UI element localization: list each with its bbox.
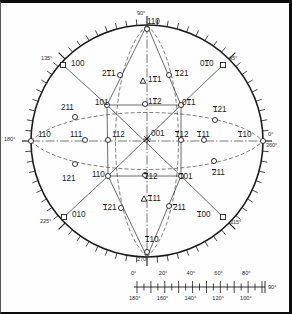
- angle-label-225: 225°: [40, 219, 51, 225]
- pole-label-p-010b: 010: [200, 60, 213, 68]
- pole-marker-p-110rb: [261, 139, 266, 144]
- pole-marker-p-111l: [83, 138, 88, 143]
- pole-label-p-111t: 111: [148, 76, 161, 84]
- pole-marker-p-211br: [212, 159, 217, 164]
- pole-label-p-010: 010: [72, 211, 85, 219]
- angle-label-180: 180°: [4, 137, 15, 143]
- angle-label-90: 90°: [137, 11, 145, 17]
- pole-label-p-121bb: 121: [103, 204, 116, 212]
- pole-marker-p-001: [143, 135, 151, 143]
- pole-label-p-110bl: 110: [92, 171, 105, 179]
- pole-label-p-211bb: 211: [173, 204, 186, 212]
- pole-label-p-101br: 101: [179, 173, 192, 181]
- pole-marker-p-110t: [145, 27, 150, 32]
- pole-label-p-211l: 211: [61, 104, 74, 112]
- pole-label-p-121r: 121: [213, 106, 226, 114]
- pole-marker-p-110bl: [106, 174, 111, 179]
- pole-marker-p-121t: [167, 73, 172, 78]
- pole-marker-p-121bl: [73, 162, 78, 167]
- pole-label-p-110bt: 110: [145, 236, 158, 244]
- pole-marker-p-211l: [73, 115, 78, 120]
- pole-label-p-112bt: 112: [144, 173, 157, 181]
- pole-label-p-121t: 121: [175, 70, 188, 78]
- pole-label-p-112t: 112: [148, 98, 161, 106]
- pole-marker-p-121r: [213, 118, 218, 123]
- pole-marker-p-010: [61, 214, 66, 219]
- angle-label-315: 315°: [230, 220, 241, 226]
- pole-label-p-001: 001: [151, 130, 164, 138]
- pole-marker-p-121bb: [119, 206, 124, 211]
- angle-label-270: 270°: [137, 257, 148, 263]
- angle-label-0: 0°: [268, 132, 273, 138]
- pole-label-p-111r: 111: [197, 131, 210, 139]
- angle-label-360: 360°: [266, 143, 277, 149]
- pole-label-p-211br: 211: [212, 169, 225, 177]
- pole-label-p-110rb: 110: [238, 131, 251, 139]
- pole-marker-p-111bt: [141, 196, 147, 201]
- pole-label-p-100b: 100: [197, 211, 210, 219]
- pole-marker-p-110r: [29, 139, 34, 144]
- pole-label-p-111l: 111: [70, 131, 82, 139]
- pole-marker-p-112t: [143, 102, 148, 107]
- pole-marker-p-100b: [220, 214, 225, 219]
- pole-marker-p-211bb: [167, 204, 172, 209]
- pole-marker-p-100: [60, 62, 65, 67]
- pole-label-p-011tr: 011: [182, 99, 195, 107]
- pole-label-p-101tl: 101: [95, 99, 108, 107]
- stereographic-projection-diagram: [1, 3, 292, 314]
- pole-marker-p-110bt: [145, 250, 150, 255]
- pole-label-p-211t: 211: [102, 70, 115, 78]
- figure-frame: 90° 135° 180° 225° 270° 315° 0° 360° 45°…: [0, 0, 292, 314]
- pole-label-p-111bt: 111: [148, 195, 161, 203]
- pole-marker-p-211t: [118, 73, 123, 78]
- angle-label-45: 45°: [229, 56, 237, 62]
- angle-label-135: 135°: [41, 56, 52, 62]
- pole-label-p-112r: 112: [175, 131, 188, 139]
- pole-label-p-110r: 110: [38, 131, 51, 139]
- pole-label-p-110t: 110: [147, 18, 160, 26]
- pole-marker-p-111t: [140, 78, 146, 83]
- pole-marker-p-112l: [106, 138, 111, 143]
- pole-marker-p-010b: [220, 62, 225, 67]
- pole-label-p-112l: 112: [112, 131, 125, 139]
- pole-label-p-100: 100: [71, 60, 84, 68]
- pole-label-p-121bl: 121: [62, 175, 75, 183]
